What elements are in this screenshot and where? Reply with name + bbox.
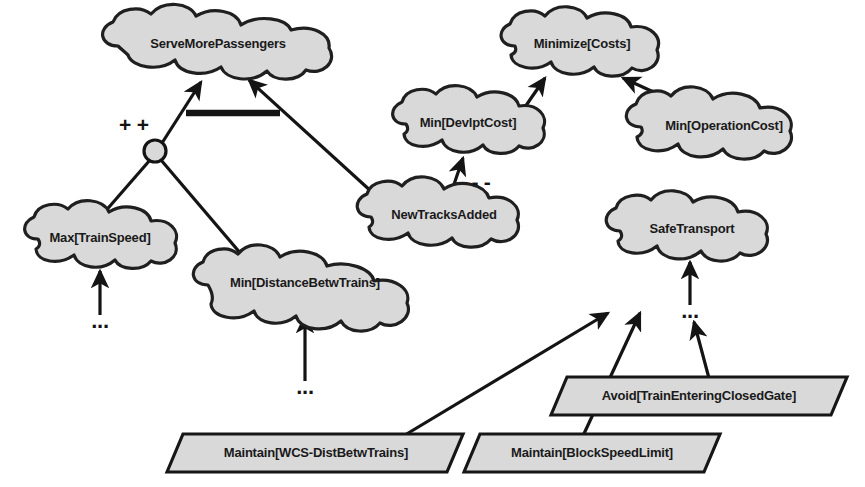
cloud-shape: [25, 201, 177, 269]
operation-node-maintain-block-speed-limit[interactable]: Maintain[BlockSpeedLimit]: [464, 434, 720, 472]
goal-model-diagram: ServeMorePassengers Minimize[Costs] Min[…: [0, 0, 865, 487]
cloud-shape: [606, 191, 767, 261]
goal-node-min-devlpt-cost[interactable]: Min[DevlptCost]: [393, 86, 545, 154]
edge-min-devlpt-to-minimize-costs: [525, 78, 545, 107]
operation-node-maintain-wcs-dist-betw-trains[interactable]: Maintain[WCS-DistBetwTrains]: [167, 434, 463, 472]
cloud-shape: [626, 87, 791, 159]
diagram-canvas: ServeMorePassengers Minimize[Costs] Min[…: [0, 0, 865, 487]
goal-node-minimize-costs[interactable]: Minimize[Costs]: [501, 7, 658, 76]
goal-node-max-train-speed[interactable]: Max[TrainSpeed]: [25, 201, 177, 269]
positive-contribution-label: + +: [119, 113, 149, 136]
cloud-shape: [193, 245, 408, 331]
goal-node-min-distance-betw-trains[interactable]: Min[DistanceBetwTrains]: [193, 245, 408, 331]
parallelogram-shape: [551, 377, 847, 415]
and-refinement-junction[interactable]: [144, 140, 166, 162]
nodes-layer: ServeMorePassengers Minimize[Costs] Min[…: [25, 4, 847, 472]
edge-avoid-gate-to-safe-transport: [694, 322, 710, 382]
edge-new-tracks-to-serve-more-passengers: [249, 80, 384, 203]
marks-layer: + + - - ... ... ...: [91, 113, 699, 399]
cloud-shape: [357, 177, 518, 247]
operation-node-avoid-train-entering-closed-gate[interactable]: Avoid[TrainEnteringClosedGate]: [551, 377, 847, 415]
cloud-shape: [501, 7, 658, 76]
cloud-shape: [103, 4, 332, 79]
goal-node-new-tracks-added[interactable]: NewTracksAdded: [357, 177, 518, 247]
goal-node-serve-more-passengers[interactable]: ServeMorePassengers: [103, 4, 332, 79]
parallelogram-shape: [167, 434, 463, 472]
cloud-shape: [393, 86, 545, 154]
goal-node-min-operation-cost[interactable]: Min[OperationCost]: [626, 87, 791, 159]
parallelogram-shape: [464, 434, 720, 472]
goal-node-safe-transport[interactable]: SafeTransport: [606, 191, 767, 261]
